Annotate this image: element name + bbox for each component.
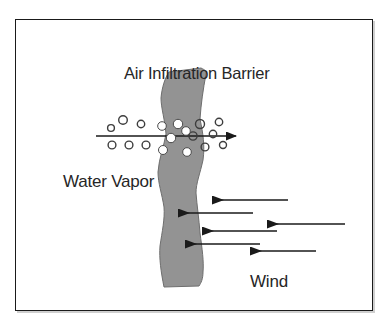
vapor-droplet xyxy=(108,125,115,132)
wind-arrow-group xyxy=(179,200,345,251)
vapor-droplet xyxy=(125,141,133,149)
title-air-infiltration-barrier: Air Infiltration Barrier xyxy=(124,64,270,83)
vapor-droplet xyxy=(173,119,182,128)
vapor-droplet xyxy=(137,120,144,127)
vapor-droplet xyxy=(119,116,128,125)
figure-frame: Air Infiltration Barrier Water Vapor Win… xyxy=(15,19,373,311)
vapor-droplet xyxy=(182,127,191,136)
vapor-droplet xyxy=(142,141,150,149)
label-wind: Wind xyxy=(250,272,288,292)
vapor-droplet xyxy=(215,118,222,125)
vapor-droplet xyxy=(166,133,175,142)
vapor-droplet xyxy=(220,142,227,149)
figure-root: Air Infiltration Barrier Water Vapor Win… xyxy=(0,0,388,324)
vapor-droplet xyxy=(183,148,192,157)
air-infiltration-barrier-membrane xyxy=(158,68,206,287)
label-water-vapor: Water Vapor xyxy=(63,172,154,192)
vapor-droplet xyxy=(108,141,116,149)
vapor-droplet xyxy=(159,146,168,155)
vapor-droplet xyxy=(158,122,167,131)
page-corner-mark xyxy=(372,2,382,12)
